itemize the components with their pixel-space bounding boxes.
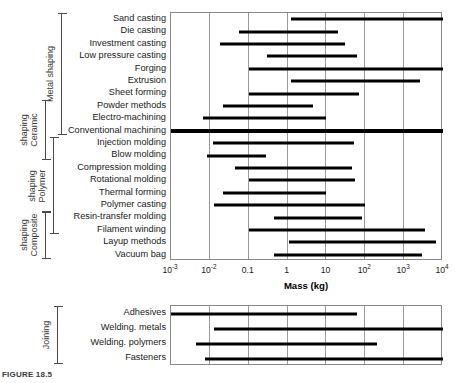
table-row bbox=[171, 187, 441, 199]
table-row bbox=[171, 174, 441, 186]
process-label: Sheet forming bbox=[0, 87, 166, 97]
table-row bbox=[171, 100, 441, 112]
range-bar bbox=[274, 253, 421, 256]
range-bar bbox=[214, 204, 365, 207]
figure-root: Mass (kg) FIGURE 18.5 Sand castingDie ca… bbox=[0, 0, 455, 383]
process-label: Compression molding bbox=[0, 162, 166, 172]
process-label: Extrusion bbox=[0, 75, 166, 85]
table-row bbox=[171, 137, 441, 149]
group-bracket bbox=[57, 306, 58, 364]
range-bar bbox=[223, 104, 313, 107]
range-bar bbox=[203, 117, 327, 120]
x-axis-title: Mass (kg) bbox=[170, 280, 442, 291]
x-tick-label: 104 bbox=[435, 265, 448, 275]
x-tick-label: 10-3 bbox=[162, 265, 177, 275]
shaping-chart-panel bbox=[170, 12, 442, 260]
x-tick-label: 0.1 bbox=[242, 265, 254, 275]
table-row bbox=[171, 50, 441, 62]
range-bar bbox=[289, 241, 436, 244]
process-label: Thermal forming bbox=[0, 187, 166, 197]
group-label: Joining bbox=[41, 321, 51, 350]
process-label: Forging bbox=[0, 63, 166, 73]
range-bar bbox=[205, 357, 443, 360]
table-row bbox=[171, 63, 441, 75]
range-bar bbox=[220, 42, 345, 45]
table-row bbox=[171, 211, 441, 223]
table-row bbox=[171, 236, 441, 248]
range-bar bbox=[291, 18, 443, 21]
range-bar bbox=[267, 55, 356, 58]
process-label: Investment casting bbox=[0, 38, 166, 48]
process-label: Low pressure casting bbox=[0, 50, 166, 60]
range-bar bbox=[213, 142, 354, 145]
range-bar bbox=[249, 92, 360, 95]
table-row bbox=[171, 75, 441, 87]
process-label: Adhesives bbox=[0, 307, 166, 317]
x-tick-label: 10-2 bbox=[201, 265, 216, 275]
x-tick-label: 103 bbox=[397, 265, 410, 275]
table-row bbox=[171, 249, 441, 261]
process-label: Blow molding bbox=[0, 149, 166, 159]
range-bar bbox=[171, 129, 443, 133]
x-tick-label: 1 bbox=[284, 265, 289, 275]
table-row bbox=[171, 224, 441, 236]
process-label: Welding. polymers bbox=[0, 337, 166, 347]
range-bar bbox=[249, 67, 443, 70]
table-row bbox=[171, 162, 441, 174]
table-row bbox=[171, 149, 441, 161]
group-label: Metal shaping bbox=[45, 46, 55, 102]
table-row bbox=[171, 306, 441, 321]
group-bracket bbox=[61, 13, 62, 135]
table-row bbox=[171, 336, 441, 351]
range-bar bbox=[239, 30, 339, 33]
range-bar bbox=[171, 312, 357, 315]
joining-chart-panel bbox=[170, 305, 442, 365]
range-bar bbox=[291, 80, 420, 83]
table-row bbox=[171, 38, 441, 50]
group-bracket bbox=[45, 100, 46, 160]
process-label: Die casting bbox=[0, 25, 166, 35]
table-row bbox=[171, 199, 441, 211]
range-bar bbox=[214, 327, 443, 330]
group-label: Ceramic bbox=[30, 113, 40, 147]
group-bracket bbox=[45, 211, 46, 259]
group-label: Polymer bbox=[38, 169, 48, 202]
table-row bbox=[171, 321, 441, 336]
group-label: shaping bbox=[20, 219, 30, 251]
x-tick-label: 10 bbox=[321, 265, 331, 275]
table-row bbox=[171, 112, 441, 124]
group-label: Composite bbox=[30, 214, 40, 257]
table-row bbox=[171, 87, 441, 99]
process-label: Powder methods bbox=[0, 100, 166, 110]
range-bar bbox=[249, 228, 426, 231]
group-label: shaping bbox=[20, 114, 30, 146]
process-label: Polymer casting bbox=[0, 199, 166, 209]
range-bar bbox=[196, 342, 377, 345]
table-row bbox=[171, 351, 441, 366]
process-label: Fasteners bbox=[0, 352, 166, 362]
process-label: Rotational molding bbox=[0, 174, 166, 184]
group-bracket bbox=[53, 137, 54, 234]
range-bar bbox=[223, 191, 326, 194]
range-bar bbox=[274, 216, 361, 219]
process-label: Welding. metals bbox=[0, 322, 166, 332]
range-bar bbox=[235, 166, 352, 169]
group-label: shaping bbox=[28, 170, 38, 202]
table-row bbox=[171, 25, 441, 37]
range-bar bbox=[249, 179, 355, 182]
figure-caption: FIGURE 18.5 bbox=[2, 370, 52, 381]
range-bar bbox=[207, 154, 266, 157]
table-row bbox=[171, 125, 441, 137]
x-tick-label: 102 bbox=[358, 265, 371, 275]
table-row bbox=[171, 13, 441, 25]
process-label: Sand casting bbox=[0, 13, 166, 23]
